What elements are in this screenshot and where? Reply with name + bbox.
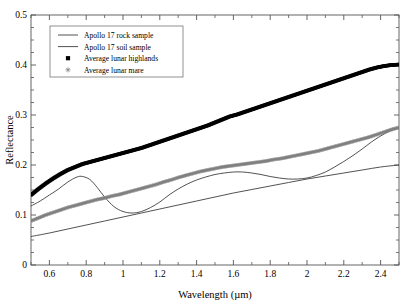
- x-tick-label: 1.2: [154, 269, 166, 279]
- chart-canvas: 0.60.811.21.41.61.822.22.4 00.10.20.30.4…: [0, 0, 408, 307]
- x-tick-label: 2.4: [375, 269, 387, 279]
- y-tick-label: 0.2: [15, 160, 27, 170]
- y-tick-label: 0.1: [15, 210, 27, 220]
- legend-label: Apollo 17 rock sample: [84, 31, 154, 40]
- legend-asterisk-swatch: [65, 67, 70, 72]
- x-axis-label: Wavelength (µm): [178, 289, 252, 301]
- marker-square: [397, 63, 400, 66]
- legend-label: Average lunar mare: [84, 66, 144, 75]
- series-2: [29, 63, 400, 197]
- x-tick-label: 2.2: [338, 269, 350, 279]
- legend-label: Average lunar highlands: [84, 54, 158, 63]
- y-axis-label: Reflectance: [4, 115, 15, 165]
- y-tick-label: 0.4: [15, 60, 27, 70]
- x-tick-label: 1.8: [264, 269, 276, 279]
- legend-square-swatch: [66, 56, 70, 60]
- y-axis-tick-labels: 00.10.20.30.40.5: [15, 10, 27, 270]
- x-tick-label: 1.6: [227, 269, 239, 279]
- legend-label: Apollo 17 soil sample: [84, 43, 151, 52]
- marker-asterisk: [397, 126, 401, 130]
- x-tick-label: 1: [121, 269, 126, 279]
- y-tick-label: 0.5: [15, 10, 27, 20]
- series-line: [31, 165, 399, 237]
- y-tick-label: 0: [22, 260, 27, 270]
- x-tick-label: 2: [305, 269, 310, 279]
- data-series: [29, 63, 401, 237]
- x-tick-label: 0.8: [80, 269, 92, 279]
- x-tick-label: 1.4: [191, 269, 203, 279]
- x-axis-tick-labels: 0.60.811.21.41.61.822.22.4: [43, 269, 386, 279]
- y-tick-label: 0.3: [15, 110, 27, 120]
- series-1: [31, 165, 399, 237]
- x-tick-label: 0.6: [43, 269, 55, 279]
- chart-legend: Apollo 17 rock sampleApollo 17 soil samp…: [50, 26, 183, 77]
- lunar-reflectance-chart: 0.60.811.21.41.61.822.22.4 00.10.20.30.4…: [0, 0, 408, 307]
